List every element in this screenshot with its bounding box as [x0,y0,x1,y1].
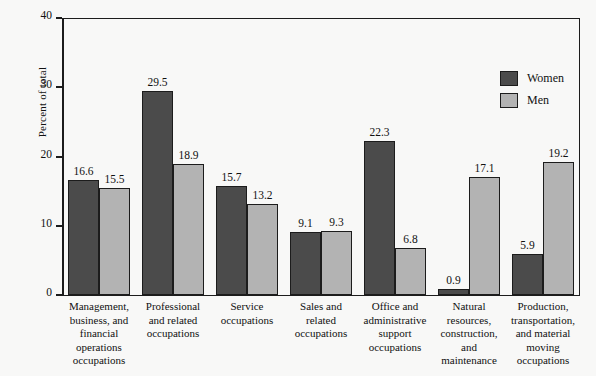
chart-container: Percent of total 010203040 Women Men 16.… [0,0,596,376]
bar-value-label: 19.2 [548,147,568,159]
legend-label-women: Women [527,71,564,86]
bar-women-5[interactable] [438,289,469,295]
bar-women-4[interactable] [364,141,395,295]
bar-women-3[interactable] [290,232,321,295]
y-tick-label: 40 [41,9,53,21]
bar-value-label: 9.3 [329,216,343,228]
legend-item-men: Men [500,91,564,110]
legend-swatch-women-icon [500,71,518,86]
bar-value-label: 6.8 [403,233,417,245]
x-axis-category-label: Production, transportation, and material… [499,300,587,368]
bar-men-0[interactable] [99,188,130,295]
bar-value-label: 9.1 [298,217,312,229]
bar-value-label: 13.2 [252,189,272,201]
bar-women-6[interactable] [512,254,543,295]
bar-men-4[interactable] [395,248,426,295]
y-tick-label: 30 [41,78,53,90]
y-tick-label: 0 [46,286,52,298]
bar-value-label: 22.3 [369,126,389,138]
bar-value-label: 5.9 [520,239,534,251]
legend-item-women: Women [500,69,564,88]
bar-women-0[interactable] [68,180,99,295]
bar-men-3[interactable] [321,231,352,295]
y-tick-label: 10 [41,217,53,229]
bar-women-1[interactable] [142,91,173,295]
bar-women-2[interactable] [216,186,247,295]
legend-swatch-men-icon [500,93,518,108]
bar-men-1[interactable] [173,164,204,295]
bar-value-label: 17.1 [474,162,494,174]
bar-value-label: 16.6 [73,165,93,177]
bar-men-6[interactable] [543,162,574,295]
legend-label-men: Men [527,93,549,108]
bar-value-label: 0.9 [446,274,460,286]
bar-value-label: 15.7 [221,171,241,183]
bar-value-label: 18.9 [178,149,198,161]
bar-value-label: 15.5 [104,173,124,185]
bar-value-label: 29.5 [147,76,167,88]
y-tick-label: 20 [41,148,53,160]
bar-men-2[interactable] [247,204,278,295]
chart-legend: Women Men [500,69,564,113]
bar-men-5[interactable] [469,177,500,295]
